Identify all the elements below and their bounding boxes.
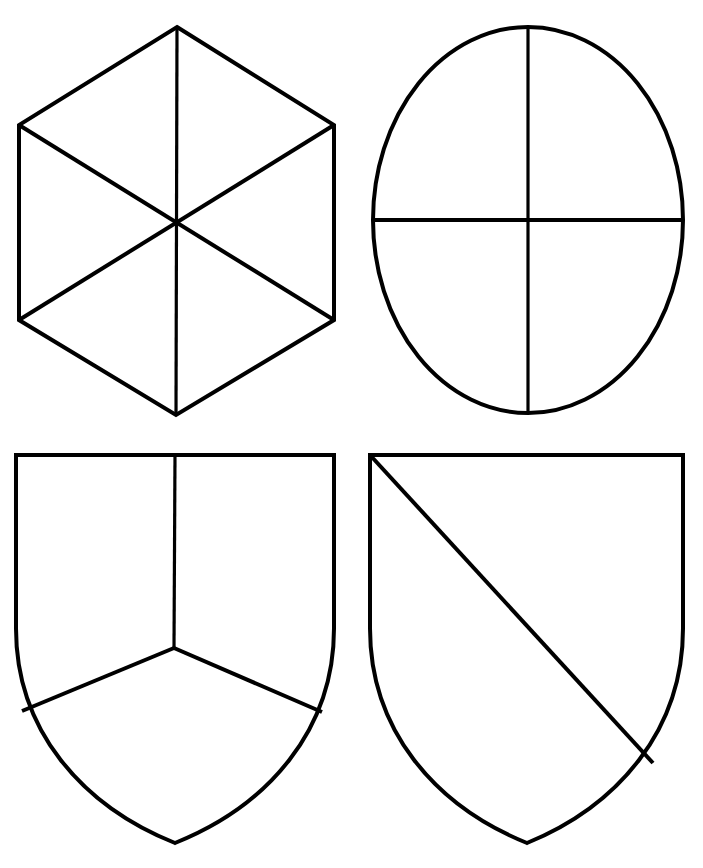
shapes-canvas (0, 0, 703, 868)
shield-per-bend-outline[interactable] (370, 455, 683, 843)
figure-ellipse-quartered[interactable] (373, 27, 683, 414)
shield-per-pall-division-vertical (174, 455, 175, 648)
figure-hexagon-gyronny[interactable] (19, 27, 334, 415)
figure-shield-per-pall[interactable] (16, 455, 334, 843)
figure-sheet (0, 0, 703, 868)
figure-shield-per-bend[interactable] (370, 455, 683, 843)
